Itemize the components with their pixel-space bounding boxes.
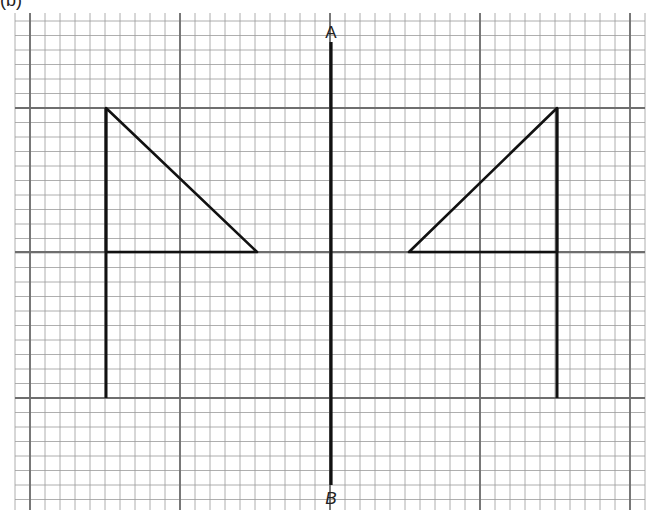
mirror-line-AB: AB [325,23,337,508]
point-label-b: B [325,489,336,508]
flag-triangle [106,108,257,252]
reflection-diagram: AB [0,0,646,515]
flag-triangle [409,108,557,252]
point-label-a: A [325,23,337,42]
